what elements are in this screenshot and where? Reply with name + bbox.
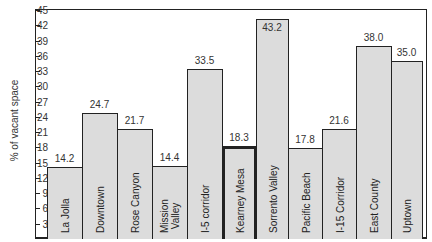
value-label: 14.2	[55, 153, 74, 164]
value-label: 18.3	[229, 132, 248, 143]
bar-la-jolla: La Jolla	[47, 167, 83, 239]
y-tick-mark	[36, 10, 40, 11]
y-tick-mark	[36, 102, 40, 103]
y-tick-mark	[36, 71, 40, 72]
value-label: 17.8	[295, 134, 314, 145]
bar-uptown: Uptown	[391, 61, 423, 239]
y-tick-mark	[36, 117, 40, 118]
bar-kearney-mesa: Kearney Mesa	[222, 146, 257, 239]
y-tick-mark	[36, 147, 40, 148]
y-tick-mark	[36, 193, 40, 194]
category-label: Rose Canyon	[130, 172, 141, 233]
category-label: I-5 corridor	[200, 185, 211, 233]
y-tick-mark	[36, 178, 40, 179]
category-label: La Jolla	[60, 199, 71, 233]
bar-mission-valley: MissionValley	[152, 166, 188, 239]
category-label: I-15 Corridor	[334, 177, 345, 233]
y-tick-mark	[36, 224, 40, 225]
y-tick-mark	[36, 208, 40, 209]
bar-i-15-corridor: I-15 Corridor	[322, 129, 357, 239]
value-label: 24.7	[90, 99, 109, 110]
bar-chart: % of vacant space 3691215182124273033363…	[0, 0, 432, 242]
value-label: 21.7	[125, 115, 144, 126]
y-tick-mark	[36, 132, 40, 133]
bar-rose-canyon: Rose Canyon	[117, 129, 153, 239]
y-axis-label: % of vacant space	[9, 61, 20, 181]
value-label: 21.6	[329, 115, 348, 126]
y-tick-mark	[36, 25, 40, 26]
category-label: Downtown	[95, 186, 106, 233]
category-label: Kearney Mesa	[234, 169, 245, 233]
bar-east-county: East County	[356, 46, 392, 239]
category-label: Uptown	[402, 199, 413, 233]
y-tick-mark	[36, 56, 40, 57]
category-label: MissionValley	[159, 199, 181, 233]
value-label: 14.4	[160, 152, 179, 163]
y-tick-mark	[36, 41, 40, 42]
y-tick-mark	[36, 163, 40, 164]
category-label: Pacific Beach	[300, 172, 311, 233]
bar-i-5-corridor: I-5 corridor	[187, 69, 223, 239]
value-label: 38.0	[364, 32, 383, 43]
category-label: Sorrento Valley	[267, 165, 278, 233]
bar-downtown: Downtown	[82, 113, 118, 239]
value-label: 35.0	[397, 47, 416, 58]
y-tick-mark	[36, 86, 40, 87]
bar-pacific-beach: Pacific Beach	[288, 148, 323, 239]
value-label: 43.2	[262, 22, 281, 33]
bar-sorrento-valley: Sorrento Valley	[256, 19, 289, 239]
value-label: 33.5	[195, 55, 214, 66]
category-label: East County	[369, 179, 380, 233]
